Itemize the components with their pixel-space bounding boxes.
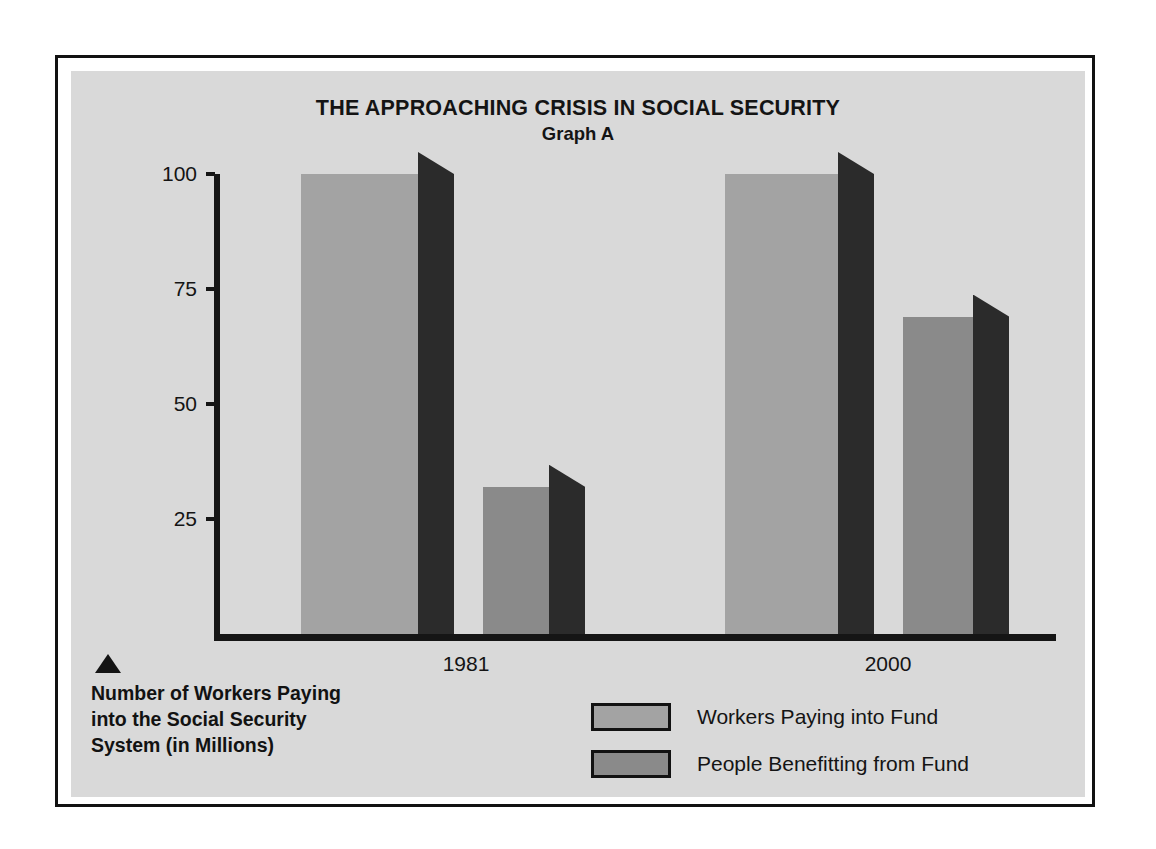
y-axis-caption-line: into the Social Security [91, 706, 391, 732]
bar-2000-beneficiaries [903, 295, 1009, 634]
legend-item: People Benefitting from Fund [591, 750, 969, 778]
bar-side-face [549, 465, 585, 634]
y-tick-label: 100 [133, 163, 197, 184]
x-tick-label: 1981 [406, 652, 526, 676]
chart-legend: Workers Paying into FundPeople Benefitti… [591, 703, 969, 797]
bar-front-face [483, 487, 549, 634]
x-tick-label: 2000 [828, 652, 948, 676]
y-tick-label: 25 [133, 508, 197, 529]
y-axis-line [214, 174, 220, 640]
bar-front-face [725, 174, 838, 634]
figure-frame: THE APPROACHING CRISIS IN SOCIAL SECURIT… [55, 55, 1095, 807]
bar-side-face [973, 295, 1009, 634]
y-tick-mark [206, 402, 215, 406]
bar-front-face [301, 174, 418, 634]
legend-label: Workers Paying into Fund [697, 705, 938, 729]
y-tick-label: 75 [133, 278, 197, 299]
bar-front-face [903, 317, 973, 634]
bar-2000-workers [725, 152, 874, 634]
bar-side-face [838, 152, 874, 634]
legend-label: People Benefitting from Fund [697, 752, 969, 776]
bar-1981-workers [301, 152, 454, 634]
bar-1981-beneficiaries [483, 465, 585, 634]
y-axis-caption-block: Number of Workers Payinginto the Social … [91, 654, 391, 758]
y-tick-mark [206, 172, 215, 176]
y-axis-caption: Number of Workers Payinginto the Social … [91, 680, 391, 758]
legend-swatch [591, 750, 671, 778]
y-axis-caption-line: System (in Millions) [91, 732, 391, 758]
y-tick-mark [206, 287, 215, 291]
bar-side-face [418, 152, 454, 634]
legend-item: Workers Paying into Fund [591, 703, 969, 731]
y-axis-caption-line: Number of Workers Paying [91, 680, 391, 706]
legend-swatch [591, 703, 671, 731]
triangle-marker-icon [95, 654, 121, 673]
y-tick-mark [206, 517, 215, 521]
chart-panel: THE APPROACHING CRISIS IN SOCIAL SECURIT… [71, 71, 1085, 797]
y-tick-label: 50 [133, 393, 197, 414]
x-axis-line [214, 634, 1056, 641]
